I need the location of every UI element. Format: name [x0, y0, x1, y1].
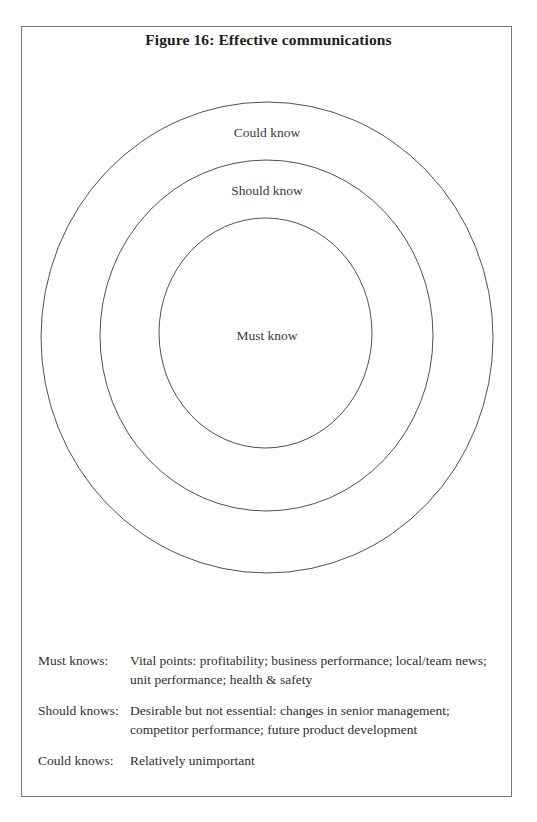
legend-row-should-knows: Should knows: Desirable but not essentia… — [38, 701, 508, 739]
legend-description: Relatively unimportant — [130, 751, 508, 770]
legend-row-could-knows: Could knows: Relatively unimportant — [38, 751, 508, 770]
ring-label-should-know: Should know — [167, 183, 367, 199]
legend-label: Must knows: — [38, 651, 130, 689]
legend-row-must-knows: Must knows: Vital points: profitability;… — [38, 651, 508, 689]
legend-label: Could knows: — [38, 751, 130, 770]
legend: Must knows: Vital points: profitability;… — [38, 651, 508, 782]
legend-description: Desirable but not essential: changes in … — [130, 701, 508, 739]
legend-label: Should knows: — [38, 701, 130, 739]
ring-label-could-know: Could know — [167, 125, 367, 141]
ring-label-must-know: Must know — [167, 328, 367, 344]
legend-description: Vital points: profitability; business pe… — [130, 651, 508, 689]
